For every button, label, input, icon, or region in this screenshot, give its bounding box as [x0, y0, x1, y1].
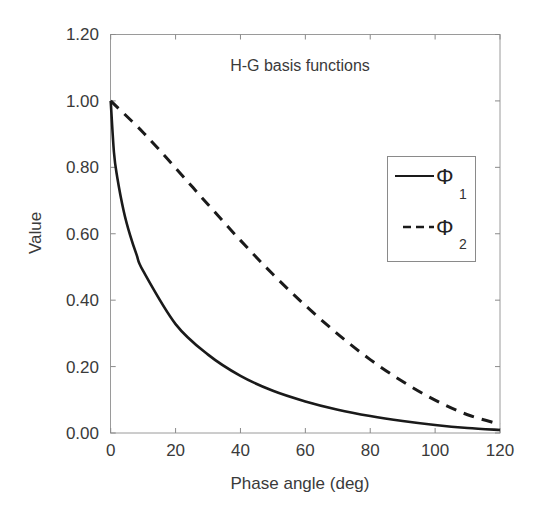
legend-label-subscript: 2 — [459, 236, 467, 252]
series-phi2-line — [111, 101, 500, 424]
legend-label-symbol: Φ — [436, 215, 454, 240]
y-tick-label: 1.00 — [66, 92, 99, 111]
y-tick-label: 0.40 — [66, 291, 99, 310]
legend-label-symbol: Φ — [436, 164, 454, 189]
y-tick-label: 0.20 — [66, 358, 99, 377]
x-tick-label: 120 — [486, 441, 514, 460]
y-tick-label: 0.00 — [66, 424, 99, 443]
plot-title: H-G basis functions — [230, 57, 370, 74]
x-tick-label: 40 — [231, 441, 250, 460]
y-axis-tick-labels: 0.00 0.20 0.40 0.60 0.80 1.00 1.20 — [66, 25, 99, 443]
x-tick-label: 80 — [361, 441, 380, 460]
x-axis-tick-labels: 0 20 40 60 80 100 120 — [106, 441, 514, 460]
x-tick-label: 60 — [296, 441, 315, 460]
x-tick-label: 100 — [421, 441, 449, 460]
y-tick-label: 0.80 — [66, 158, 99, 177]
x-tick-label: 0 — [106, 441, 115, 460]
y-axis-title: Value — [26, 212, 45, 254]
series-phi1-line — [111, 101, 500, 430]
chart: 0.00 0.20 0.40 0.60 0.80 1.00 1.20 0 20 … — [0, 0, 542, 515]
legend: Φ 1 Φ 2 — [388, 157, 476, 262]
x-tick-label: 20 — [166, 441, 185, 460]
y-tick-label: 0.60 — [66, 225, 99, 244]
legend-label-subscript: 1 — [459, 186, 467, 202]
y-tick-label: 1.20 — [66, 25, 99, 44]
x-axis-title: Phase angle (deg) — [231, 474, 370, 493]
